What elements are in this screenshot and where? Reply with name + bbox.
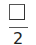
checkbox-cell: 2 [0, 0, 36, 45]
checkbox-label: 2 [0, 30, 36, 45]
divider [9, 27, 28, 28]
checkbox[interactable] [9, 4, 25, 20]
